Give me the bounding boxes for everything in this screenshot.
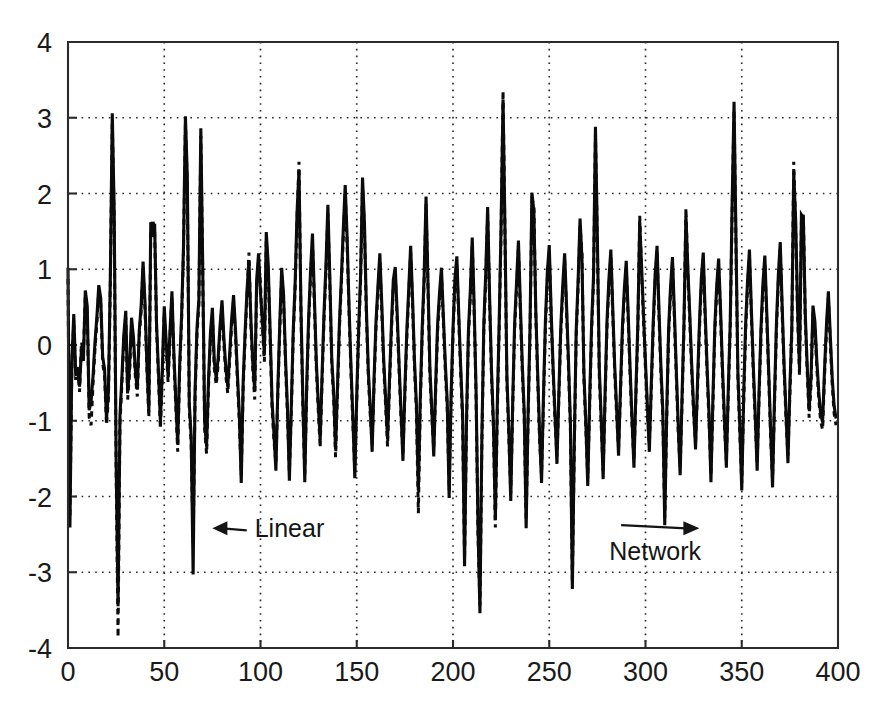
x-tick-label-0: 0 bbox=[60, 657, 75, 687]
x-tick-label-300: 300 bbox=[623, 657, 668, 687]
y-tick-label--4: -4 bbox=[28, 634, 52, 664]
x-tick-label-200: 200 bbox=[430, 657, 475, 687]
y-axis-tick-labels: -4-3-2-101234 bbox=[28, 28, 52, 664]
x-tick-label-150: 150 bbox=[334, 657, 379, 687]
linear-annotation-text: Linear bbox=[255, 514, 325, 542]
x-tick-label-400: 400 bbox=[815, 657, 860, 687]
y-tick-label-3: 3 bbox=[37, 104, 52, 134]
data-series bbox=[68, 90, 836, 637]
x-tick-label-100: 100 bbox=[238, 657, 283, 687]
y-tick-label--3: -3 bbox=[28, 558, 52, 588]
network-annotation: Network bbox=[609, 521, 701, 565]
y-tick-label-1: 1 bbox=[37, 255, 52, 285]
y-tick-label--2: -2 bbox=[28, 483, 52, 513]
linear-annotation: Linear bbox=[212, 514, 324, 542]
y-tick-label-0: 0 bbox=[37, 331, 52, 361]
network-annotation-text: Network bbox=[609, 537, 701, 565]
network-annotation-arrow-line bbox=[621, 525, 686, 528]
line-chart: 050100150200250300350400 -4-3-2-101234 L… bbox=[0, 0, 885, 717]
network-annotation-arrow-head bbox=[683, 521, 699, 535]
linear-annotation-arrow-head bbox=[212, 521, 227, 535]
y-tick-label-4: 4 bbox=[37, 28, 52, 58]
annotations: LinearNetwork bbox=[212, 514, 701, 565]
x-tick-label-250: 250 bbox=[527, 657, 572, 687]
x-tick-label-50: 50 bbox=[149, 657, 179, 687]
figure-container: 050100150200250300350400 -4-3-2-101234 L… bbox=[0, 0, 885, 717]
x-axis-tick-labels: 050100150200250300350400 bbox=[60, 657, 860, 687]
x-tick-label-350: 350 bbox=[719, 657, 764, 687]
y-tick-label--1: -1 bbox=[28, 407, 52, 437]
y-tick-label-2: 2 bbox=[37, 180, 52, 210]
